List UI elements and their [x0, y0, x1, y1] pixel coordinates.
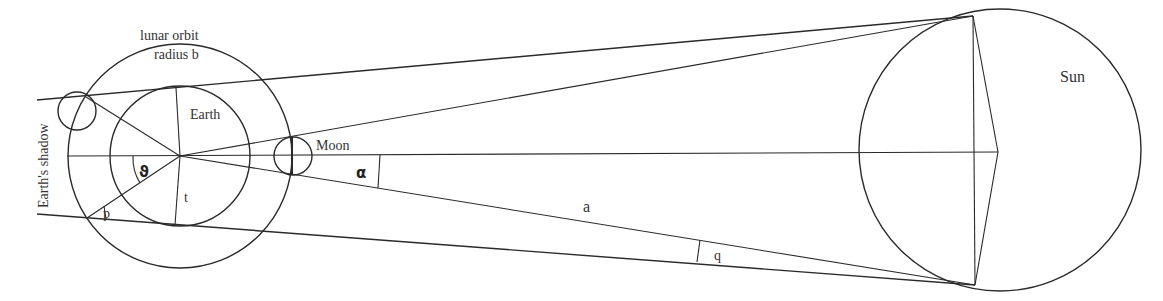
- earth-to-sun-bottom-line: [180, 156, 975, 285]
- earth-sun-axis: [67, 152, 998, 156]
- q-angle-marker: [697, 240, 700, 262]
- alpha-angle-marker: [378, 155, 380, 188]
- sun-radius-bottom: [975, 152, 998, 285]
- earth-radius-t: [175, 156, 180, 225]
- alpha-label: α: [356, 164, 366, 182]
- earth-to-shadow-moon-line: [86, 97, 180, 156]
- a-label: a: [583, 198, 590, 215]
- eclipse-geometry-diagram: lunar orbit radius b Earth Earth's shado…: [0, 0, 1163, 301]
- sun-vertical-chord: [973, 16, 975, 285]
- earth-to-sun-top-line: [180, 16, 973, 156]
- lunar-orbit-radius-label: radius b: [154, 47, 199, 62]
- sun-circle: [859, 9, 1141, 291]
- shadow-lower-boundary: [37, 214, 975, 285]
- sun-label: Sun: [1060, 68, 1085, 85]
- earth-label: Earth: [190, 107, 220, 122]
- earths-shadow-label: Earth's shadow: [36, 123, 51, 208]
- moon-label: Moon: [316, 138, 349, 153]
- q-label: q: [714, 248, 721, 263]
- t-label: t: [184, 190, 188, 205]
- earth-radius-top: [176, 88, 180, 156]
- lunar-orbit-label: lunar orbit: [140, 28, 199, 43]
- sun-radius-top: [973, 16, 998, 152]
- p-label: p: [103, 206, 110, 221]
- theta-label: ϑ: [139, 163, 149, 181]
